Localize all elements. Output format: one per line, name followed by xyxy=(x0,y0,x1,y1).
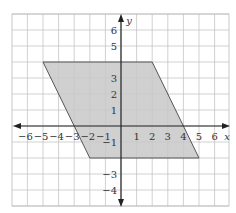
x-tick-label: −2 xyxy=(80,131,95,142)
y-axis-label: y xyxy=(125,15,132,26)
y-tick-label: 2 xyxy=(111,89,117,100)
x-axis-label: x xyxy=(224,131,230,142)
y-tick-label: 5 xyxy=(111,41,117,52)
x-tick-label: 4 xyxy=(180,131,186,142)
x-tick-label: −3 xyxy=(65,131,80,142)
y-tick-label: 6 xyxy=(111,25,117,36)
x-tick-label: 3 xyxy=(165,131,171,142)
y-tick-label: 3 xyxy=(111,73,117,84)
x-tick-label: 1 xyxy=(133,131,139,142)
x-tick-label: 6 xyxy=(211,131,217,142)
arrow-up-icon xyxy=(118,14,124,22)
y-tick-label: −4 xyxy=(102,185,117,196)
x-tick-label: 2 xyxy=(149,131,155,142)
axes xyxy=(13,14,230,207)
x-tick-label: −4 xyxy=(49,131,64,142)
x-tick-label: −5 xyxy=(34,131,49,142)
y-tick-label: 1 xyxy=(111,105,117,116)
y-tick-label: −1 xyxy=(102,137,117,148)
y-tick-label: −3 xyxy=(102,169,117,180)
arrow-left-icon xyxy=(13,123,21,129)
x-tick-label: −6 xyxy=(18,131,33,142)
coordinate-plane: −6−5−4−3−2−112345665321−1−3−4xy xyxy=(0,0,236,213)
x-tick-label: 5 xyxy=(196,131,202,142)
